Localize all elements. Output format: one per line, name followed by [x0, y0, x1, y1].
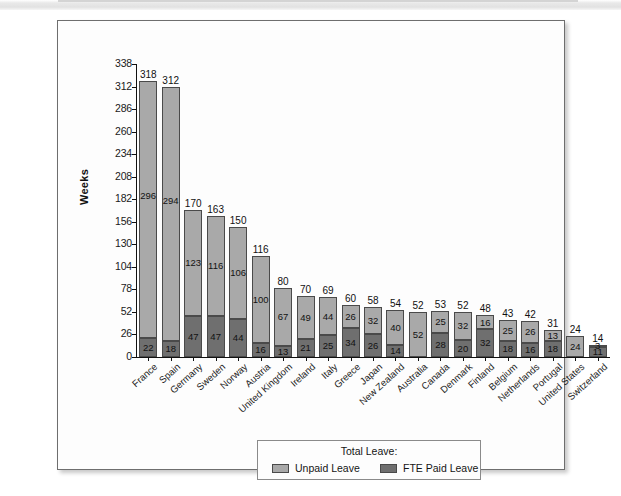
bar-segment-paid[interactable]: 16 [521, 343, 539, 357]
bar-column[interactable]: 182543 [499, 320, 517, 357]
bar-column[interactable]: 02424 [566, 336, 584, 357]
bar-segment-paid[interactable]: 26 [364, 334, 382, 357]
bar-segment-value: 25 [435, 317, 446, 327]
bar-segment-paid[interactable]: 18 [499, 341, 517, 357]
bar-segment-unpaid[interactable]: 44 [319, 297, 337, 335]
bar-segment-unpaid[interactable]: 52 [409, 312, 427, 357]
y-axis-tick-label: 78 [121, 282, 132, 294]
chart-figure-frame: Weeks 3383122862602342081821561301047852… [57, 20, 565, 470]
bar-segment-value: 25 [323, 341, 334, 351]
bar-column[interactable]: 144054 [386, 310, 404, 357]
bar-segment-unpaid[interactable]: 24 [566, 336, 584, 357]
bar-segment-paid[interactable]: 20 [454, 340, 472, 357]
page-scan-rule [58, 0, 578, 2]
bar-segment-unpaid[interactable]: 100 [252, 256, 270, 343]
bar-segment-value: 24 [570, 342, 581, 352]
bar-segment-value: 18 [503, 344, 514, 354]
bar-column[interactable]: 214970 [297, 296, 315, 357]
bar-segment-paid[interactable]: 28 [431, 333, 449, 357]
bar-segment-paid[interactable]: 18 [162, 341, 180, 357]
bar-segment-paid[interactable]: 13 [274, 346, 292, 357]
legend-swatch-unpaid-icon [272, 464, 289, 473]
bar-segment-paid[interactable]: 44 [229, 319, 247, 357]
bar-column[interactable]: 16100116 [252, 256, 270, 357]
legend-title: Total Leave: [258, 445, 480, 457]
bar-segment-unpaid[interactable]: 123 [184, 210, 202, 317]
bar-segment-unpaid[interactable]: 16 [476, 315, 494, 329]
bar-column[interactable]: 282553 [431, 311, 449, 357]
bar-segment-unpaid[interactable]: 13 [544, 330, 562, 341]
bar-segment-unpaid[interactable]: 25 [431, 311, 449, 333]
bar-column[interactable]: 47123170 [184, 210, 202, 357]
bar-segment-value: 26 [345, 312, 356, 322]
y-axis-tick-label: 52 [121, 305, 132, 317]
bar-segment-unpaid[interactable]: 32 [364, 307, 382, 335]
bar-segment-unpaid[interactable]: 67 [274, 288, 292, 346]
bar-segment-value: 16 [480, 318, 491, 328]
y-axis-tick-labels: 3383122862602342081821561301047852260 [94, 64, 132, 358]
legend-label-unpaid: Unpaid Leave [295, 462, 360, 474]
bar-segment-paid[interactable]: 25 [319, 335, 337, 357]
bar-column[interactable]: 47116163 [207, 216, 225, 357]
bar-segment-unpaid[interactable]: 116 [207, 216, 225, 317]
y-axis-tick-label: 26 [121, 327, 132, 339]
bar-column[interactable]: 05252 [409, 312, 427, 357]
bar-segment-value: 14 [390, 346, 401, 356]
y-axis-title: Weeks [78, 157, 90, 217]
bar-column[interactable]: 342660 [342, 305, 360, 357]
bar-column[interactable]: 11314 [589, 345, 607, 357]
bar-column[interactable]: 136780 [274, 288, 292, 357]
bar-segment-unpaid[interactable]: 106 [229, 227, 247, 319]
bar-segment-value: 106 [230, 268, 246, 278]
bar-segment-paid[interactable]: 16 [252, 343, 270, 357]
y-axis-tick-label: 260 [115, 125, 132, 137]
bar-segment-paid[interactable]: 22 [139, 338, 157, 357]
bar-segment-value: 52 [413, 330, 424, 340]
bar-column[interactable]: 254469 [319, 297, 337, 357]
bar-segment-value: 123 [185, 258, 201, 268]
bar-segment-unpaid[interactable]: 3 [589, 345, 607, 348]
y-axis-tick-label: 130 [115, 237, 132, 249]
bar-column[interactable]: 263258 [364, 307, 382, 357]
bar-column[interactable]: 18294312 [162, 87, 180, 357]
y-axis-tick-label: 338 [115, 57, 132, 69]
bar-segment-paid[interactable]: 47 [184, 316, 202, 357]
y-axis-tick-label: 156 [115, 215, 132, 227]
bar-segment-unpaid[interactable]: 26 [342, 305, 360, 328]
bar-segment-unpaid[interactable]: 26 [521, 321, 539, 344]
page-scan-top-band [0, 0, 621, 10]
bar-segment-unpaid[interactable]: 32 [454, 312, 472, 340]
bar-segment-value: 34 [345, 338, 356, 348]
bar-segment-unpaid[interactable]: 40 [386, 310, 404, 345]
bar-segment-value: 28 [435, 340, 446, 350]
bar-segment-unpaid[interactable]: 294 [162, 87, 180, 342]
bar-total-label: 163 [203, 205, 229, 215]
bar-segment-value: 13 [278, 347, 289, 357]
bar-segment-unpaid[interactable]: 296 [139, 81, 157, 338]
bar-column[interactable]: 162642 [521, 321, 539, 357]
bar-total-label: 116 [248, 245, 274, 255]
bar-segment-unpaid[interactable]: 49 [297, 296, 315, 338]
bar-segment-paid[interactable]: 14 [386, 345, 404, 357]
bar-segment-paid[interactable]: 32 [476, 329, 494, 357]
bar-segment-paid[interactable]: 34 [342, 328, 360, 357]
bar-segment-value: 47 [210, 332, 221, 342]
legend-label-paid: FTE Paid Leave [403, 462, 478, 474]
bar-segment-paid[interactable]: 47 [207, 316, 225, 357]
bar-column[interactable]: 22296318 [139, 81, 157, 357]
bar-segment-value: 20 [458, 344, 469, 354]
bar-segment-unpaid[interactable]: 25 [499, 320, 517, 342]
bar-segment-value: 18 [548, 344, 559, 354]
bar-column[interactable]: 44106150 [229, 227, 247, 357]
bar-total-label: 312 [158, 76, 184, 86]
legend-entry-paid: FTE Paid Leave [380, 462, 478, 474]
bar-segment-value: 44 [233, 333, 244, 343]
bar-segment-paid[interactable]: 18 [544, 341, 562, 357]
bar-segment-value: 116 [208, 261, 223, 271]
bar-column[interactable]: 321648 [476, 315, 494, 357]
bar-segment-paid[interactable]: 21 [297, 339, 315, 357]
bar-column[interactable]: 203252 [454, 312, 472, 357]
bar-segment-value: 40 [390, 323, 401, 333]
bar-segment-value: 67 [278, 312, 289, 322]
bar-column[interactable]: 181331 [544, 330, 562, 357]
